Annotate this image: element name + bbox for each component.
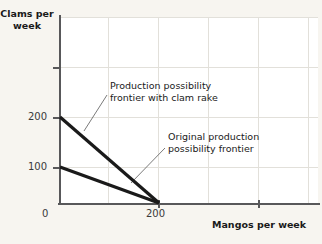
gridline-vertical bbox=[208, 17, 209, 203]
y-axis-tick-200 bbox=[53, 117, 61, 119]
x-axis-tick-minor bbox=[258, 200, 260, 208]
gridline-horizontal bbox=[59, 17, 318, 18]
y-axis-tick-minor bbox=[53, 67, 61, 69]
gridline-horizontal bbox=[59, 117, 318, 118]
annotation-clam-rake-line2: frontier with clam rake bbox=[110, 92, 218, 104]
x-axis-line bbox=[58, 203, 320, 205]
gridline-vertical bbox=[308, 17, 309, 203]
y-tick-label-200: 200 bbox=[28, 111, 47, 122]
gridline-horizontal bbox=[59, 167, 318, 168]
gridline-vertical bbox=[108, 17, 109, 203]
y-axis-tick-100 bbox=[53, 167, 61, 169]
ppf-chart-figure: Clams per week Mangos per week 200 100 0… bbox=[0, 0, 322, 244]
annotation-ppf-with-clam-rake: Production possibility frontier with cla… bbox=[110, 80, 218, 103]
x-axis-tick-200 bbox=[158, 200, 160, 208]
y-axis-title-line2: week bbox=[0, 20, 54, 32]
annotation-clam-rake-line1: Production possibility bbox=[110, 80, 218, 92]
annotation-original-line2: possibility frontier bbox=[168, 143, 259, 155]
x-axis-title: Mangos per week bbox=[212, 219, 306, 230]
plot-area bbox=[59, 17, 318, 203]
annotation-original-ppf: Original production possibility frontier bbox=[168, 131, 259, 154]
y-axis-line bbox=[59, 15, 61, 205]
y-axis-title: Clams per week bbox=[0, 8, 54, 32]
y-axis-title-line1: Clams per bbox=[0, 8, 54, 20]
gridline-horizontal bbox=[59, 67, 318, 68]
gridline-vertical bbox=[258, 17, 259, 203]
y-tick-label-100: 100 bbox=[28, 161, 47, 172]
annotation-original-line1: Original production bbox=[168, 131, 259, 143]
gridline-vertical bbox=[158, 17, 159, 203]
origin-label: 0 bbox=[42, 208, 48, 219]
x-tick-label-200: 200 bbox=[146, 208, 165, 219]
